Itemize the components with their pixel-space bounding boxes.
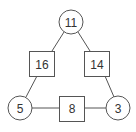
square-node-bottom-value: 8: [69, 102, 76, 116]
square-node-right-value: 14: [90, 58, 104, 72]
square-node-right: 14: [85, 52, 110, 77]
edge-left-to-bottom-left: [26, 76, 37, 97]
circle-node-bottom-left-value: 5: [17, 102, 24, 116]
circle-node-top-value: 11: [65, 16, 78, 30]
circle-node-bottom-right-value: 3: [115, 102, 122, 116]
square-node-left: 16: [30, 52, 55, 77]
edge-top-to-left: [52, 32, 64, 51]
square-node-bottom: 8: [60, 97, 85, 122]
circle-node-top: 11: [59, 10, 83, 34]
edge-right-to-bottom-right: [105, 76, 114, 97]
circle-node-bottom-right: 3: [106, 96, 130, 120]
square-node-left-value: 16: [35, 58, 49, 72]
number-triangle-diagram: 11 5 3 16 14 8: [0, 0, 136, 132]
edge-top-to-right: [78, 32, 90, 51]
circle-node-bottom-left: 5: [8, 96, 32, 120]
